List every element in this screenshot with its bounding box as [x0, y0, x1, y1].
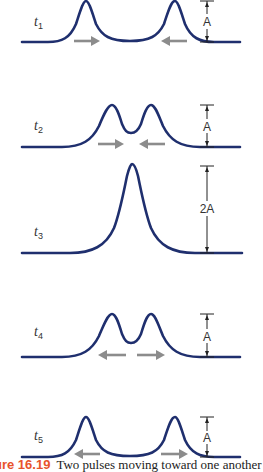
amplitude-label-t5: A	[203, 431, 211, 445]
amplitude-marker-t3: 2A	[200, 166, 215, 253]
amplitude-label-t1: A	[203, 15, 211, 29]
panel-t5: t5 A	[22, 417, 240, 459]
panel-t1: t1 A	[22, 1, 240, 46]
amplitude-label-t3: 2A	[200, 202, 215, 216]
arrow-left-icon	[161, 36, 187, 46]
amplitude-marker-t2: A	[200, 105, 214, 147]
time-label-t4: t4	[34, 324, 43, 341]
time-label-t3: t3	[34, 224, 43, 241]
amplitude-label-t4: A	[203, 330, 211, 344]
arrow-right-icon	[74, 36, 100, 46]
time-label-t5: t5	[34, 428, 43, 445]
caption-text: Two pulses moving toward one another	[56, 457, 261, 472]
panel-t2: t2 A	[22, 105, 240, 149]
amplitude-label-t2: A	[203, 120, 211, 134]
arrow-right-icon	[137, 350, 165, 360]
panel-t3: t3 2A	[22, 164, 242, 253]
amplitude-marker-t4: A	[200, 314, 214, 357]
figure-caption: ure 16.19Two pulses moving toward one an…	[0, 458, 262, 472]
amplitude-marker-t1: A	[200, 1, 214, 42]
panel-t4: t4 A	[22, 314, 240, 360]
time-label-t1: t1	[34, 14, 43, 31]
arrow-left-icon	[139, 139, 165, 149]
arrow-left-icon	[98, 350, 126, 360]
amplitude-marker-t5: A	[200, 417, 214, 457]
time-label-t2: t2	[34, 118, 43, 135]
caption-number: ure 16.19	[0, 457, 50, 472]
arrow-right-icon	[98, 139, 124, 149]
